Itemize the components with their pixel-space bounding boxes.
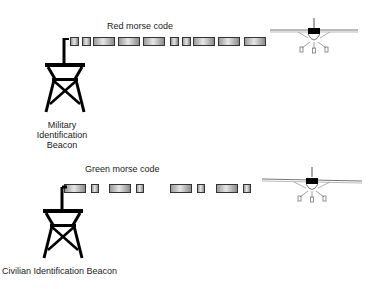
green-morse-code-label: Green morse code (85, 164, 160, 174)
green-morse-dash (109, 184, 131, 193)
red-morse-dash (244, 37, 266, 46)
green-morse-dash (216, 184, 238, 193)
green-morse-dot (91, 184, 99, 193)
military-beacon-label-line-2: Identification (22, 130, 102, 140)
red-morse-dash (118, 37, 140, 46)
military-beacon-label-line-1: Military (22, 120, 102, 130)
civilian-beacon-label: Civilian Identification Beacon (2, 266, 117, 276)
red-morse-dash (93, 37, 115, 46)
red-morse-code-label: Red morse code (107, 21, 173, 31)
radio-tower-icon (40, 36, 90, 116)
radio-tower-icon (38, 184, 88, 262)
green-morse-dash (170, 184, 192, 193)
red-morse-dot (170, 37, 179, 46)
green-morse-dot (197, 184, 205, 193)
green-morse-dot (243, 184, 251, 193)
red-morse-dash (193, 37, 215, 46)
military-beacon-label: Military Identification Beacon (22, 120, 102, 150)
airplane-icon (262, 167, 362, 207)
red-morse-dot (182, 37, 191, 46)
military-beacon-label-line-3: Beacon (22, 140, 102, 150)
green-morse-dot (136, 184, 144, 193)
red-morse-dash (218, 37, 240, 46)
red-morse-dash (143, 37, 165, 46)
airplane-icon (270, 18, 370, 58)
